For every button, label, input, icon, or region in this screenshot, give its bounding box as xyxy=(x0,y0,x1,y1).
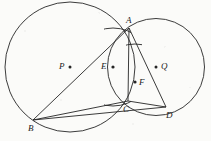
segment-bc xyxy=(33,101,128,120)
point-dot-e xyxy=(111,65,114,68)
point-dot-q xyxy=(155,66,158,69)
point-label-q: Q xyxy=(161,62,168,71)
segment-bd xyxy=(33,107,166,120)
point-label-f: F xyxy=(139,78,145,87)
point-dot-f xyxy=(133,80,136,83)
point-dot-p xyxy=(69,66,72,69)
segment-cd xyxy=(128,101,166,107)
point-label-p: P xyxy=(59,62,65,71)
point-label-b: B xyxy=(28,124,34,133)
point-label-d: D xyxy=(166,111,173,120)
point-label-e: E xyxy=(101,62,107,71)
point-label-c: C xyxy=(123,105,129,114)
point-label-a: A xyxy=(126,16,132,25)
